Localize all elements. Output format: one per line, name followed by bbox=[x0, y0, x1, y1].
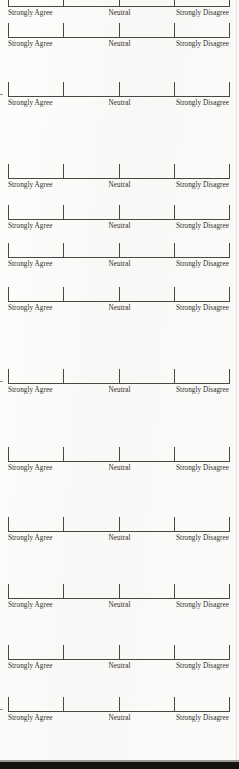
likert-scale[interactable]: Strongly AgreeNeutralStrongly Disagree bbox=[0, 78, 239, 112]
scale-tick-2[interactable] bbox=[119, 584, 120, 599]
scale-label-right: Strongly Disagree bbox=[176, 39, 229, 50]
scale-tick-0[interactable] bbox=[8, 243, 9, 258]
scale-tick-1[interactable] bbox=[63, 243, 64, 258]
scale-label-middle: Neutral bbox=[109, 661, 131, 672]
likert-scale[interactable]: Strongly AgreeNeutralStrongly Disagree bbox=[0, 201, 239, 235]
scale-tick-3[interactable] bbox=[174, 447, 175, 462]
scale-tick-3[interactable] bbox=[174, 164, 175, 179]
scale-tick-3[interactable] bbox=[174, 697, 175, 712]
scale-label-middle: Neutral bbox=[109, 259, 131, 270]
scale-tick-4[interactable] bbox=[229, 243, 230, 258]
scale-tick-2[interactable] bbox=[119, 205, 120, 220]
scale-tick-2[interactable] bbox=[119, 645, 120, 660]
scale-labels: Strongly AgreeNeutralStrongly Disagree bbox=[0, 259, 239, 272]
scale-tick-3[interactable] bbox=[174, 0, 175, 7]
scale-label-right: Strongly Disagree bbox=[176, 463, 229, 474]
scale-label-middle: Neutral bbox=[109, 463, 131, 474]
scale-tick-0[interactable] bbox=[8, 205, 9, 220]
scale-label-middle: Neutral bbox=[109, 39, 131, 50]
scale-tick-2[interactable] bbox=[119, 23, 120, 38]
scale-tick-4[interactable] bbox=[229, 82, 230, 97]
scale-tick-0[interactable] bbox=[8, 287, 9, 302]
likert-scale[interactable]: Strongly AgreeNeutralStrongly Disagree bbox=[0, 580, 239, 614]
scale-tick-3[interactable] bbox=[174, 205, 175, 220]
page-bottom-band bbox=[0, 762, 239, 769]
scale-tick-3[interactable] bbox=[174, 287, 175, 302]
scale-tick-1[interactable] bbox=[63, 447, 64, 462]
scale-tick-0[interactable] bbox=[8, 82, 9, 97]
scale-tick-0[interactable] bbox=[8, 645, 9, 660]
scale-tick-1[interactable] bbox=[63, 697, 64, 712]
scale-tick-1[interactable] bbox=[63, 517, 64, 532]
scale-label-right: Strongly Disagree bbox=[176, 8, 229, 19]
scale-tick-0[interactable] bbox=[8, 164, 9, 179]
scale-tick-4[interactable] bbox=[229, 517, 230, 532]
scale-tick-0[interactable] bbox=[8, 517, 9, 532]
scale-label-middle: Neutral bbox=[109, 98, 131, 109]
scale-tick-4[interactable] bbox=[229, 164, 230, 179]
scale-tick-4[interactable] bbox=[229, 645, 230, 660]
scale-tick-3[interactable] bbox=[174, 369, 175, 384]
likert-scale[interactable]: Strongly AgreeNeutralStrongly Disagree bbox=[0, 443, 239, 477]
scale-labels: Strongly AgreeNeutralStrongly Disagree bbox=[0, 39, 239, 52]
scale-tick-2[interactable] bbox=[119, 697, 120, 712]
scale-tick-1[interactable] bbox=[63, 0, 64, 7]
likert-scale[interactable]: Strongly AgreeNeutralStrongly Disagree bbox=[0, 160, 239, 194]
scale-label-right: Strongly Disagree bbox=[176, 98, 229, 109]
scale-label-left: Strongly Agree bbox=[8, 180, 52, 191]
scale-tick-4[interactable] bbox=[229, 0, 230, 7]
scale-tick-0[interactable] bbox=[8, 697, 9, 712]
scale-label-left: Strongly Agree bbox=[8, 713, 52, 724]
scale-tick-4[interactable] bbox=[229, 369, 230, 384]
scale-label-left: Strongly Agree bbox=[8, 385, 52, 396]
likert-scale[interactable]: Strongly AgreeNeutralStrongly Disagree bbox=[0, 641, 239, 675]
scale-tick-4[interactable] bbox=[229, 205, 230, 220]
likert-scale[interactable]: Strongly AgreeNeutralStrongly Disagree bbox=[0, 239, 239, 273]
scale-tick-2[interactable] bbox=[119, 82, 120, 97]
likert-scale[interactable]: Strongly AgreeNeutralStrongly Disagree bbox=[0, 365, 239, 399]
scale-tick-3[interactable] bbox=[174, 584, 175, 599]
scale-tick-1[interactable] bbox=[63, 82, 64, 97]
likert-scale[interactable]: Strongly AgreeNeutralStrongly Disagree bbox=[0, 513, 239, 547]
scale-tick-2[interactable] bbox=[119, 0, 120, 7]
scale-tick-1[interactable] bbox=[63, 645, 64, 660]
scale-tick-2[interactable] bbox=[119, 243, 120, 258]
scale-tick-2[interactable] bbox=[119, 164, 120, 179]
scale-tick-4[interactable] bbox=[229, 584, 230, 599]
scale-tick-1[interactable] bbox=[63, 205, 64, 220]
likert-scale[interactable]: Strongly AgreeNeutralStrongly Disagree bbox=[0, 19, 239, 53]
scale-tick-1[interactable] bbox=[63, 164, 64, 179]
scale-tick-0[interactable] bbox=[8, 584, 9, 599]
scale-label-left: Strongly Agree bbox=[8, 661, 52, 672]
scale-tick-2[interactable] bbox=[119, 287, 120, 302]
scale-tick-2[interactable] bbox=[119, 447, 120, 462]
scale-label-left: Strongly Agree bbox=[8, 98, 52, 109]
scale-tick-0[interactable] bbox=[8, 369, 9, 384]
scale-tick-4[interactable] bbox=[229, 697, 230, 712]
likert-scale[interactable]: Strongly AgreeNeutralStrongly Disagree bbox=[0, 693, 239, 727]
scale-tick-0[interactable] bbox=[8, 0, 9, 7]
scale-tick-1[interactable] bbox=[63, 584, 64, 599]
scale-tick-4[interactable] bbox=[229, 447, 230, 462]
scale-label-right: Strongly Disagree bbox=[176, 533, 229, 544]
scale-label-middle: Neutral bbox=[109, 180, 131, 191]
scale-label-right: Strongly Disagree bbox=[176, 713, 229, 724]
scale-tick-4[interactable] bbox=[229, 23, 230, 38]
scale-tick-3[interactable] bbox=[174, 517, 175, 532]
likert-scale[interactable]: Strongly AgreeNeutralStrongly Disagree bbox=[0, 283, 239, 317]
scale-tick-0[interactable] bbox=[8, 447, 9, 462]
scale-label-left: Strongly Agree bbox=[8, 533, 52, 544]
scale-tick-1[interactable] bbox=[63, 23, 64, 38]
scale-tick-2[interactable] bbox=[119, 517, 120, 532]
scale-label-right: Strongly Disagree bbox=[176, 661, 229, 672]
scale-tick-4[interactable] bbox=[229, 287, 230, 302]
scale-tick-2[interactable] bbox=[119, 369, 120, 384]
scale-tick-3[interactable] bbox=[174, 645, 175, 660]
scale-label-right: Strongly Disagree bbox=[176, 600, 229, 611]
scale-tick-0[interactable] bbox=[8, 23, 9, 38]
scale-tick-1[interactable] bbox=[63, 369, 64, 384]
scale-tick-3[interactable] bbox=[174, 243, 175, 258]
scale-tick-3[interactable] bbox=[174, 82, 175, 97]
scale-tick-1[interactable] bbox=[63, 287, 64, 302]
scale-tick-3[interactable] bbox=[174, 23, 175, 38]
